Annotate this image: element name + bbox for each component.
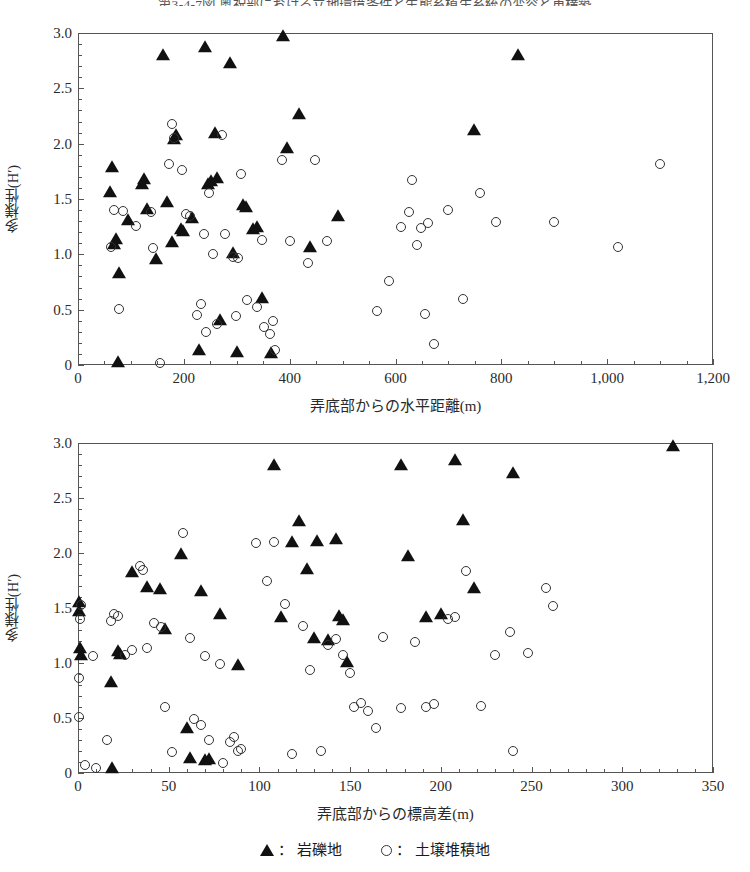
x-axis-minor-tick [422,361,423,365]
data-point-rocky [292,514,306,526]
y-axis-tick [78,310,84,311]
x-axis-tick [622,767,623,773]
x-axis-label: 弄底部からの水平距離(m) [78,394,713,415]
data-point-soil [450,612,460,622]
y-axis-minor-tick [78,354,82,355]
y-axis-minor-tick [78,454,82,455]
data-point-soil [178,528,188,538]
data-point-rocky [300,562,314,574]
data-point-rocky [213,607,227,619]
x-axis-minor-tick [586,769,587,773]
y-axis-minor-tick [78,243,82,244]
x-axis-minor-tick [316,361,317,365]
data-point-rocky [160,196,174,208]
y-axis-tick [78,773,84,774]
x-axis-minor-tick [550,769,551,773]
data-point-rocky [310,534,324,546]
data-point-rocky [511,48,525,60]
data-point-soil [322,236,332,246]
data-point-soil [118,206,128,216]
y-axis-minor-tick [78,685,82,686]
data-point-soil [396,703,406,713]
x-axis-minor-tick [513,769,514,773]
data-point-soil [423,218,433,228]
data-point-soil [372,306,382,316]
x-axis-tick-label: 0 [74,370,82,387]
data-point-soil [185,633,195,643]
data-point-soil [280,599,290,609]
data-point-soil [215,659,225,669]
x-axis-minor-tick [241,769,242,773]
y-axis-tick-label: 0 [32,765,72,782]
y-axis-minor-tick [78,707,82,708]
y-axis-tick [78,443,84,444]
data-point-soil [114,304,124,314]
data-point-soil [91,763,101,773]
y-axis-tick [78,33,84,34]
y-axis-minor-tick [78,166,82,167]
legend-separator-1: ： [278,842,293,858]
data-point-soil [242,295,252,305]
data-point-soil [127,645,137,655]
y-axis-minor-tick [78,542,82,543]
x-axis-tick [169,767,170,773]
x-axis-minor-tick [554,361,555,365]
data-point-soil [251,538,261,548]
x-axis-minor-tick [237,361,238,365]
data-point-soil [420,309,430,319]
x-axis-minor-tick [187,769,188,773]
data-point-soil [475,188,485,198]
x-axis-minor-tick [343,361,344,365]
data-point-soil [233,253,243,263]
data-point-soil [196,720,206,730]
x-axis-minor-tick [132,769,133,773]
data-point-rocky [285,535,299,547]
data-point-rocky [329,532,343,544]
y-axis-minor-tick [78,276,82,277]
data-point-rocky [307,631,321,643]
data-point-soil [74,712,84,722]
data-point-soil [160,702,170,712]
data-point-soil [287,749,297,759]
data-point-soil [363,706,373,716]
data-point-soil [410,637,420,647]
data-point-soil [201,327,211,337]
data-point-soil [269,537,279,547]
x-axis-minor-tick [604,769,605,773]
x-axis-minor-tick [332,769,333,773]
y-axis-minor-tick [78,586,82,587]
data-point-soil [177,165,187,175]
data-point-soil [142,643,152,653]
x-axis-minor-tick [263,361,264,365]
x-axis-minor-tick [423,769,424,773]
data-point-soil [196,299,206,309]
data-point-soil [303,258,313,268]
data-point-rocky [292,107,306,119]
data-point-rocky [104,675,118,687]
x-axis-tick-label: 350 [702,778,725,795]
y-axis-tick-label: 3.0 [32,435,72,452]
data-point-rocky [255,291,269,303]
data-point-rocky [174,547,188,559]
data-point-soil [204,188,214,198]
data-point-soil [305,665,315,675]
x-axis-minor-tick [386,769,387,773]
y-axis-minor-tick [78,729,82,730]
data-point-soil [613,242,623,252]
data-point-rocky [103,186,117,198]
x-axis-tick-label: 1,000 [590,370,624,387]
y-axis-tick [78,144,84,145]
x-axis-minor-tick [314,769,315,773]
data-point-soil [102,735,112,745]
x-axis-minor-tick [568,769,569,773]
y-axis-minor-tick [78,77,82,78]
data-point-rocky [112,266,126,278]
data-point-rocky [198,41,212,53]
x-axis-minor-tick [495,769,496,773]
x-axis-tick [441,767,442,773]
data-point-soil [167,119,177,129]
x-axis-tick [501,359,502,365]
data-point-soil [277,155,287,165]
y-axis-tick [78,498,84,499]
x-axis-tick-label: 600 [384,370,407,387]
